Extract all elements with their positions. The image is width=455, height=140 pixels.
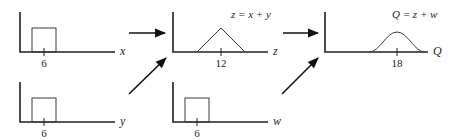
axes-x (20, 12, 115, 52)
tick-label-w: 6 (194, 127, 200, 139)
formula-q: Q = z + w (392, 8, 438, 20)
convolution-diagram: 6 x 6 y 12 z z = x + y 6 w 18 Q Q = z + … (0, 0, 455, 140)
tick-label-y: 6 (41, 127, 47, 139)
axis-label-z: z (272, 44, 278, 58)
arrow-y-to-z (129, 58, 166, 94)
panel-q: 18 Q Q = z + w (325, 8, 442, 69)
axes-y (20, 82, 115, 122)
arrow-w-to-q (282, 58, 318, 94)
formula-z: z = x + y (230, 8, 271, 20)
axis-label-q: Q (433, 44, 442, 58)
axis-label-x: x (119, 44, 126, 58)
tick-label-z: 12 (216, 57, 227, 69)
axis-label-y: y (119, 114, 126, 128)
panel-w: 6 w (173, 82, 281, 139)
axis-label-w: w (273, 114, 281, 128)
axes-w (173, 82, 268, 122)
panel-y: 6 y (20, 82, 126, 139)
tick-label-q: 18 (392, 57, 404, 69)
panel-x: 6 x (20, 12, 126, 69)
panel-z: 12 z z = x + y (173, 8, 278, 69)
tick-label-x: 6 (41, 57, 47, 69)
